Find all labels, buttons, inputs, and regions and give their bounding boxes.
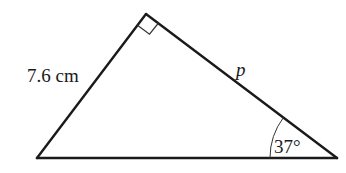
side-right-hypotenuse-p [146,14,337,158]
triangle-diagram: 7.6 cm p 37° [0,0,346,173]
label-left-side: 7.6 cm [27,65,79,86]
right-angle-marker [138,23,159,34]
label-angle: 37° [274,136,301,157]
label-p: p [234,59,246,80]
side-left [37,14,146,158]
